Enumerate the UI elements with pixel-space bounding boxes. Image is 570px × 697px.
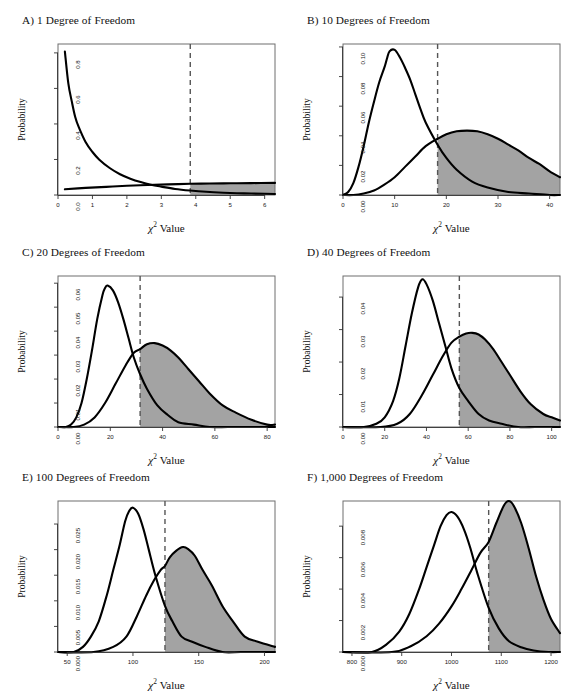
y-tick-label: 0.01 [359,393,366,419]
y-tick-label: 0.00 [74,426,81,452]
x-tick-label: 80 [253,433,281,440]
x-tick-label: 1000 [438,658,466,665]
y-tick-label: 0.008 [359,525,366,551]
y-tick-label: 0.015 [74,574,81,600]
x-tick-label: 20 [432,201,460,208]
plot-area [285,465,570,697]
y-tick-label: 0.02 [359,361,366,387]
x-tick-label: 1200 [537,658,565,665]
panel-a: A) 1 Degree of FreedomProbabilityχ2 Valu… [0,8,285,240]
x-tick-label: 0 [329,201,357,208]
y-tick-label: 0.03 [359,328,366,354]
panel-c: C) 20 Degrees of FreedomProbabilityχ2 Va… [0,240,285,472]
y-tick-label: 0.05 [74,306,81,332]
x-tick-label: 5 [216,201,244,208]
y-tick-label: 0.010 [74,599,81,625]
y-tick-label: 0.06 [74,282,81,308]
y-tick-label: 0.000 [359,651,366,677]
y-tick-label: 0.04 [74,330,81,356]
x-tick-label: 0 [44,433,72,440]
y-tick-label: 0.04 [359,134,366,160]
y-tick-label: 0.10 [359,45,366,71]
y-tick-label: 0.2 [74,158,81,184]
panel-d: D) 40 Degrees of FreedomProbabilityχ2 Va… [285,240,570,472]
y-tick-label: 0.002 [359,619,366,645]
null-distribution-curve [65,52,275,194]
y-tick-label: 0.025 [74,523,81,549]
y-tick-label: 0.04 [359,296,366,322]
x-tick-label: 200 [250,658,278,665]
x-tick-label: 1100 [487,658,515,665]
x-tick-label: 80 [496,433,524,440]
plot-area [285,8,570,240]
x-tick-label: 60 [201,433,229,440]
x-tick-label: 2 [113,201,141,208]
panel-f: F) 1,000 Degrees of FreedomProbabilityχ2… [285,465,570,697]
x-tick-label: 20 [96,433,124,440]
x-tick-label: 40 [536,201,564,208]
y-tick-label: 0.4 [74,122,81,148]
x-tick-label: 100 [119,658,147,665]
x-tick-label: 10 [381,201,409,208]
y-tick-label: 0.6 [74,87,81,113]
x-tick-label: 1 [78,201,106,208]
y-tick-label: 0.03 [74,354,81,380]
x-tick-label: 0 [44,201,72,208]
x-tick-label: 20 [371,433,399,440]
plot-frame [58,44,275,195]
y-tick-label: 0.000 [74,651,81,677]
x-tick-label: 40 [149,433,177,440]
y-tick-label: 0.02 [74,378,81,404]
x-tick-label: 0 [329,433,357,440]
y-tick-label: 0.01 [74,402,81,428]
x-tick-label: 100 [538,433,566,440]
y-tick-label: 0.0 [74,194,81,220]
y-tick-label: 0.06 [359,105,366,131]
y-tick-label: 0.08 [359,75,366,101]
x-tick-label: 150 [185,658,213,665]
x-tick-label: 40 [412,433,440,440]
y-tick-label: 0.006 [359,556,366,582]
panel-b: B) 10 Degrees of FreedomProbabilityχ2 Va… [285,8,570,240]
y-tick-label: 0.004 [359,588,366,614]
y-tick-label: 0.020 [74,548,81,574]
y-tick-label: 0.005 [74,625,81,651]
plot-area [0,240,285,472]
x-tick-label: 60 [454,433,482,440]
power-shaded-region [140,343,275,427]
panel-e: E) 100 Degrees of FreedomProbabilityχ2 V… [0,465,285,697]
power-shaded-region [459,333,560,427]
y-tick-label: 0.8 [74,51,81,77]
x-tick-label: 3 [147,201,175,208]
x-tick-label: 30 [484,201,512,208]
x-tick-label: 4 [182,201,210,208]
chi-square-power-figure: A) 1 Degree of FreedomProbabilityχ2 Valu… [0,0,570,697]
x-tick-label: 6 [251,201,279,208]
y-tick-label: 0.00 [359,426,366,452]
y-tick-label: 0.00 [359,194,366,220]
x-tick-label: 900 [388,658,416,665]
y-tick-label: 0.02 [359,164,366,190]
